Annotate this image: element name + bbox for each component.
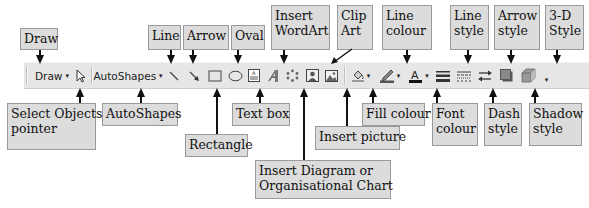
text-box-button[interactable]: A <box>246 63 262 88</box>
dash-style-icon <box>457 70 471 82</box>
callout-arrow: Arrow <box>183 25 229 50</box>
autoshapes-label: AutoShapes <box>93 70 156 82</box>
line-colour-button[interactable]: ▾ <box>376 63 404 88</box>
chevron-down-icon: ▾ <box>397 72 401 80</box>
callout-insert-diagram: Insert Diagram orOrganisational Chart <box>255 160 391 199</box>
autoshapes-menu-button[interactable]: AutoShapes▾ <box>94 63 162 88</box>
select-objects-button[interactable] <box>74 63 88 88</box>
chevron-down-icon: ▾ <box>367 72 371 80</box>
callout-fill-colour: Fill colour <box>362 103 425 126</box>
callout-insert-picture: Insert picture <box>315 126 400 150</box>
insert-diagram-button[interactable] <box>284 63 300 88</box>
svg-text:A: A <box>252 70 256 76</box>
insert-picture-button[interactable] <box>323 63 340 88</box>
callout-3d-style: 3-DStyle <box>545 5 584 50</box>
toolbar-options-button[interactable]: ▾ <box>540 63 550 88</box>
arrow-icon <box>188 70 200 82</box>
chevron-down-icon: ▾ <box>159 72 163 80</box>
draw-menu-button[interactable]: Draw▾ <box>31 63 73 88</box>
dash-style-button[interactable] <box>455 63 473 88</box>
text-box-icon: A <box>248 69 260 82</box>
pointer-arrow-icon <box>76 69 86 83</box>
callout-autoshapes: AutoShapes <box>102 103 178 126</box>
callout-oval: Oval <box>231 25 265 50</box>
callout-font-colour: Fontcolour <box>432 103 478 146</box>
rectangle-button[interactable] <box>206 63 224 88</box>
arrow-style-icon <box>478 70 492 82</box>
arrow-style-button[interactable] <box>476 63 494 88</box>
font-colour-button[interactable]: A ▾ <box>406 63 432 88</box>
diagram-icon <box>286 69 299 82</box>
3d-cube-icon <box>521 68 536 83</box>
wordart-icon <box>267 69 279 83</box>
3d-style-button[interactable] <box>518 63 538 88</box>
callout-rectangle: Rectangle <box>185 134 248 157</box>
paint-bucket-icon <box>352 69 364 82</box>
drawing-toolbar: Draw▾ AutoShapes▾ A ▾ ▾ A ▾ <box>24 62 589 89</box>
toolbar-grip[interactable] <box>26 67 28 84</box>
insert-wordart-button[interactable] <box>265 63 281 88</box>
clip-art-icon <box>306 69 319 82</box>
callout-line: Line <box>148 25 181 50</box>
line-style-button[interactable] <box>434 63 452 88</box>
arrow-button[interactable] <box>186 63 202 88</box>
callout-select-objects-pointer: Select Objectspointer <box>7 103 96 150</box>
callout-line-colour: Linecolour <box>382 5 432 50</box>
draw-label: Draw <box>35 70 62 82</box>
callout-draw: Draw <box>20 28 58 50</box>
rectangle-icon <box>208 70 222 82</box>
callout-shadow-style: Shadowstyle <box>529 103 582 146</box>
chevron-down-icon: ▾ <box>65 72 69 80</box>
chevron-down-icon: ▾ <box>545 76 549 84</box>
callout-insert-wordart: InsertWordArt <box>271 5 330 50</box>
oval-icon <box>228 70 243 82</box>
callout-line-style: Linestyle <box>450 5 489 50</box>
line-button[interactable] <box>166 63 182 88</box>
pen-icon <box>380 69 394 83</box>
shadow-style-button[interactable] <box>497 63 515 88</box>
line-style-icon <box>436 70 450 82</box>
oval-button[interactable] <box>226 63 244 88</box>
font-colour-icon: A <box>409 69 422 83</box>
insert-clip-art-button[interactable] <box>304 63 321 88</box>
picture-icon <box>325 70 338 82</box>
callout-clip-art: ClipArt <box>337 5 373 50</box>
callout-dash-style: Dashstyle <box>484 103 522 146</box>
line-icon <box>168 70 180 82</box>
callout-arrow-style: Arrowstyle <box>494 5 540 50</box>
fill-colour-button[interactable]: ▾ <box>348 63 374 88</box>
shadow-icon <box>500 69 513 82</box>
chevron-down-icon: ▾ <box>425 72 429 80</box>
callout-text-box: Text box <box>232 103 290 126</box>
